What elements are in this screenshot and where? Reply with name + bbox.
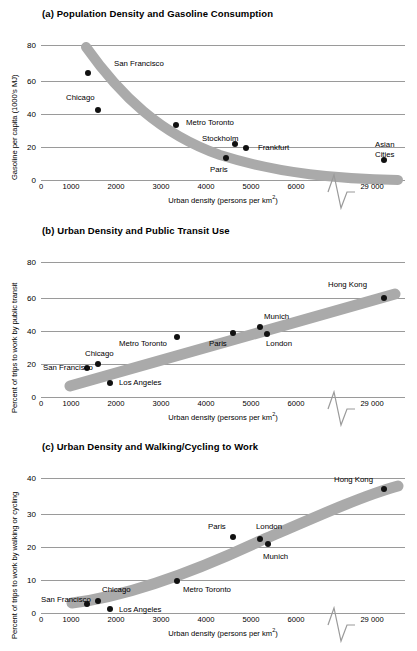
chart-c-point-munich[interactable] xyxy=(265,541,271,547)
chart-panel-c: (c) Urban Density and Walking/Cycling to… xyxy=(0,433,417,651)
chart-b-xtick-6000: 6000 xyxy=(277,399,315,408)
chart-c-x-axis-title-pre: Urban density (persons per km xyxy=(168,629,272,638)
chart-b-label-munich: Munich xyxy=(264,312,289,321)
chart-b-xtick-5000: 5000 xyxy=(232,399,270,408)
chart-b-label-san-francisco: San Francisco xyxy=(43,363,93,372)
chart-b-xtick-0: 0 xyxy=(31,399,51,408)
chart-panel-b: (b) Urban Density and Public Transit Use… xyxy=(0,217,417,433)
chart-a-label-stockholm: Stockholm xyxy=(202,134,238,143)
chart-a-label-frankfurt: Frankfurt xyxy=(258,143,289,152)
chart-a-axis-break-icon xyxy=(324,170,358,212)
chart-c-label-hong-kong: Hong Kong xyxy=(334,475,373,484)
chart-b-x-axis-title: Urban density (persons per km2) xyxy=(93,413,353,422)
chart-b-xtick-2000: 2000 xyxy=(97,399,135,408)
chart-a-x-axis-title: Urban density (persons per km2) xyxy=(93,196,353,205)
chart-b-point-paris[interactable] xyxy=(230,330,236,336)
chart-b-point-hong-kong[interactable] xyxy=(381,295,387,301)
chart-a-point-frankfurt[interactable] xyxy=(243,145,249,151)
chart-c-xtick-1000: 1000 xyxy=(52,615,90,624)
chart-c-xtick-5000: 5000 xyxy=(232,615,270,624)
chart-a-xtick-3000: 3000 xyxy=(142,182,180,191)
chart-c-point-paris[interactable] xyxy=(230,534,236,540)
chart-a-x-axis-title-post: ) xyxy=(275,196,278,205)
chart-c-label-munich: Munich xyxy=(263,552,288,561)
chart-b-label-paris: Paris xyxy=(209,339,227,348)
chart-a-label-san-francisco: San Francisco xyxy=(114,59,164,68)
chart-a-point-metro-toronto[interactable] xyxy=(173,122,179,128)
chart-c-point-los-angeles[interactable] xyxy=(107,606,113,612)
chart-c-x-axis-title-post: ) xyxy=(275,629,278,638)
chart-b-label-hong-kong: Hong Kong xyxy=(328,280,367,289)
chart-a-xtick-29000: 29 000 xyxy=(348,182,396,191)
chart-c-xtick-2000: 2000 xyxy=(97,615,135,624)
chart-b-xtick-29000: 29 000 xyxy=(348,399,396,408)
chart-c-point-metro-toronto[interactable] xyxy=(174,578,180,584)
chart-a-point-san-francisco[interactable] xyxy=(85,70,91,76)
chart-c-point-hong-kong[interactable] xyxy=(381,486,387,492)
chart-a-label-metro-toronto: Metro Toronto xyxy=(186,118,234,127)
chart-b-xtick-3000: 3000 xyxy=(142,399,180,408)
chart-c-label-paris: Paris xyxy=(208,522,226,531)
chart-c-xtick-6000: 6000 xyxy=(277,615,315,624)
chart-b-label-chicago: Chicago xyxy=(85,349,114,358)
chart-c-xtick-29000: 29 000 xyxy=(348,615,396,624)
chart-a-point-paris[interactable] xyxy=(223,155,229,161)
chart-c-axis-break-icon xyxy=(324,603,358,645)
chart-c-x-axis-title: Urban density (persons per km2) xyxy=(93,629,353,638)
chart-a-label-asian: Asian xyxy=(375,140,395,149)
chart-b-label-los-angeles: Los Angeles xyxy=(119,378,161,387)
chart-a-label-chicago: Chicago xyxy=(66,93,95,102)
chart-c-xtick-0: 0 xyxy=(31,615,51,624)
chart-b-point-chicago[interactable] xyxy=(95,361,101,367)
chart-b-point-los-angeles[interactable] xyxy=(107,380,113,386)
chart-a-label-cities: Cities xyxy=(375,150,395,159)
chart-c-label-los-angeles: Los Angeles xyxy=(119,605,161,614)
chart-a-label-paris: Paris xyxy=(210,165,228,174)
chart-c-label-london: London xyxy=(256,522,282,531)
chart-c-point-chicago[interactable] xyxy=(95,598,101,604)
chart-panel-a: (a) Population Density and Gasoline Cons… xyxy=(0,0,417,217)
chart-b-x-axis-title-post: ) xyxy=(275,413,278,422)
chart-b-point-metro-toronto[interactable] xyxy=(174,334,180,340)
chart-b-xtick-1000: 1000 xyxy=(52,399,90,408)
chart-b-point-munich[interactable] xyxy=(257,324,263,330)
chart-a-xtick-5000: 5000 xyxy=(232,182,270,191)
chart-c-label-chicago: Chicago xyxy=(102,585,131,594)
chart-b-axis-break-icon xyxy=(324,387,358,429)
chart-a-xtick-2000: 2000 xyxy=(97,182,135,191)
chart-b-x-axis-title-pre: Urban density (persons per km xyxy=(168,413,272,422)
chart-a-x-axis-title-pre: Urban density (persons per km xyxy=(168,196,272,205)
chart-a-xtick-4000: 4000 xyxy=(187,182,225,191)
chart-b-point-london[interactable] xyxy=(264,331,270,337)
chart-b-label-london: London xyxy=(266,339,292,348)
chart-c-label-metro-toronto: Metro Toronto xyxy=(183,585,231,594)
chart-c-xtick-3000: 3000 xyxy=(142,615,180,624)
chart-b-label-metro-toronto: Metro Toronto xyxy=(119,339,167,348)
chart-c-label-san-francisco: San Francisco xyxy=(41,595,91,604)
chart-a-xtick-6000: 6000 xyxy=(277,182,315,191)
chart-a-xtick-1000: 1000 xyxy=(52,182,90,191)
chart-a-point-chicago[interactable] xyxy=(95,107,101,113)
chart-c-xtick-4000: 4000 xyxy=(187,615,225,624)
chart-c-point-london[interactable] xyxy=(257,536,263,542)
chart-a-xtick-0: 0 xyxy=(31,182,51,191)
chart-b-xtick-4000: 4000 xyxy=(187,399,225,408)
